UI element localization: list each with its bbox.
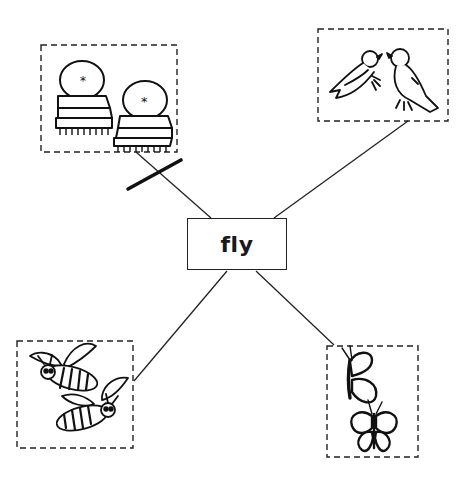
connector-line-butterflies [256,271,334,345]
connector-line-armchairs [136,152,211,218]
svg-text:*: * [141,94,148,109]
center-word-box: fly [187,218,287,270]
connector-line-birds [274,121,408,218]
center-word: fly [221,232,254,257]
svg-text:*: * [80,74,86,88]
birds-icon [330,49,438,112]
butterflies-icon [342,346,397,451]
armchairs-icon: * * [56,61,172,152]
connector-line-bees [134,271,227,381]
bees-icon [30,344,128,436]
